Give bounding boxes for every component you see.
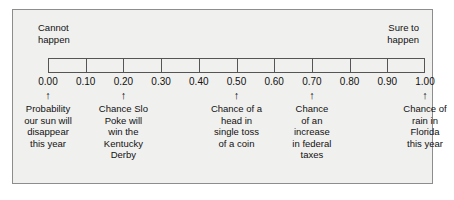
caption-cannot-happen: Cannot happen <box>38 22 70 45</box>
arrow-up-icon: ↑ <box>382 90 454 102</box>
tick-label: 0.60 <box>264 76 283 87</box>
figure-panel: Cannot happen Sure to happen 0.000.100.2… <box>12 9 433 184</box>
scale-tick <box>161 59 162 72</box>
annotation-label: Chance Slo Poke will win the Kentucky De… <box>80 103 166 161</box>
arrow-up-icon: ↑ <box>5 90 91 102</box>
tick-label: 0.10 <box>76 76 95 87</box>
tick-label: 0.40 <box>189 76 208 87</box>
scale-tick <box>312 59 313 72</box>
probability-scale-bar <box>48 58 425 73</box>
scale-tick <box>199 59 200 72</box>
annotation-item: ↑Chance Slo Poke will win the Kentucky D… <box>80 90 166 161</box>
annotation-row: ↑Probability our sun will disappear this… <box>13 90 434 185</box>
tick-label: 0.30 <box>151 76 170 87</box>
annotation-item: ↑Chance of rain in Florida this year <box>382 90 454 149</box>
annotation-label: Chance of a head in single toss of a coi… <box>194 103 280 149</box>
tick-label: 0.90 <box>378 76 397 87</box>
tick-label-row: 0.000.100.200.300.400.500.600.700.800.90… <box>13 76 434 89</box>
annotation-label: Chance of rain in Florida this year <box>382 103 454 149</box>
probability-scale-figure: Cannot happen Sure to happen 0.000.100.2… <box>0 0 454 200</box>
tick-label: 0.70 <box>302 76 321 87</box>
tick-label: 0.20 <box>114 76 133 87</box>
arrow-up-icon: ↑ <box>269 90 355 102</box>
scale-tick <box>86 59 87 72</box>
arrow-up-icon: ↑ <box>80 90 166 102</box>
arrow-up-icon: ↑ <box>194 90 280 102</box>
tick-label: 1.00 <box>415 76 434 87</box>
scale-tick <box>274 59 275 72</box>
tick-label: 0.00 <box>38 76 57 87</box>
scale-tick <box>350 59 351 72</box>
annotation-item: ↑Chance of a head in single toss of a co… <box>194 90 280 149</box>
annotation-item: ↑Chance of an increase in federal taxes <box>269 90 355 161</box>
annotation-label: Probability our sun will disappear this … <box>5 103 91 149</box>
scale-tick <box>387 59 388 72</box>
annotation-item: ↑Probability our sun will disappear this… <box>5 90 91 149</box>
caption-sure-to-happen: Sure to happen <box>387 22 419 45</box>
tick-label: 0.80 <box>340 76 359 87</box>
scale-tick <box>237 59 238 72</box>
annotation-label: Chance of an increase in federal taxes <box>269 103 355 161</box>
tick-label: 0.50 <box>227 76 246 87</box>
scale-tick <box>123 59 124 72</box>
